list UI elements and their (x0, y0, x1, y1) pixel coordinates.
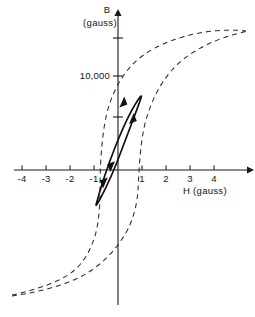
x-tick-label-2: 2 (163, 173, 168, 184)
y-axis-arrow-icon (114, 9, 121, 16)
saturation-envelope-upper-curve (12, 30, 246, 295)
x-tick-label--1: -1 (90, 173, 99, 184)
x-tick-label-4: 4 (211, 173, 216, 184)
y-axis-title-symbol: B (104, 4, 111, 15)
saturation-envelope-group (12, 30, 247, 296)
hysteresis-loop-path (96, 96, 142, 205)
x-tick-label--4: -4 (18, 173, 27, 184)
x-axis-arrow-icon (247, 166, 254, 173)
axes-group: -4 -3 -2 -1 1 2 3 4 10,000 H (gauss) B (… (14, 4, 254, 305)
figure-root: -4 -3 -2 -1 1 2 3 4 10,000 H (gauss) B (… (0, 0, 255, 317)
y-tick-label-10000: 10,000 (80, 70, 110, 81)
x-tick-label-3: 3 (187, 173, 192, 184)
loop-arrow-ascending-upper-icon (119, 97, 127, 108)
x-axis-title: H (gauss) (183, 185, 227, 196)
saturation-envelope-lower-curve (12, 31, 247, 296)
y-axis-title-units: (gauss) (83, 17, 117, 28)
x-tick-label--3: -3 (42, 173, 51, 184)
x-tick-label-1: 1 (139, 173, 144, 184)
hysteresis-plot-svg: -4 -3 -2 -1 1 2 3 4 10,000 H (gauss) B (… (0, 0, 255, 317)
x-tick-label--2: -2 (66, 173, 75, 184)
hysteresis-loop-group (96, 96, 142, 205)
